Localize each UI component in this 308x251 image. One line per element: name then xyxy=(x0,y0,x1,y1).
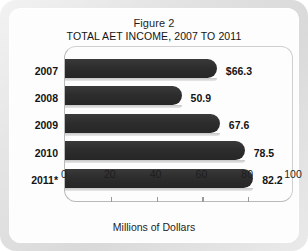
bar-value-label: 50.9 xyxy=(191,92,211,104)
x-axis-title: Millions of Dollars xyxy=(9,221,299,233)
bar-shadow xyxy=(65,78,217,81)
bar-value-label: $66.3 xyxy=(226,65,252,77)
bar-category-label: 2009 xyxy=(35,119,58,131)
x-axis-tick xyxy=(157,197,158,202)
x-axis-tick-label: 0 xyxy=(61,168,67,180)
bar-row: 2007$66.3 xyxy=(65,57,292,84)
bar-track xyxy=(65,141,245,161)
bar-track xyxy=(65,59,217,79)
chart-subtitle: TOTAL AET INCOME, 2007 TO 2011 xyxy=(9,30,299,42)
bar xyxy=(65,86,182,105)
bar-value-label: 82.2 xyxy=(262,174,282,186)
x-axis-tick-label: 40 xyxy=(150,168,162,180)
bar-category-label: 2011* xyxy=(31,174,58,186)
chart-title: Figure 2 xyxy=(9,17,299,29)
bar-category-label: 2007 xyxy=(35,65,58,77)
x-axis-tick xyxy=(248,197,249,202)
bar-row: 200967.6 xyxy=(65,112,292,139)
bar-value-label: 67.6 xyxy=(229,119,249,131)
bar xyxy=(65,59,217,78)
bar xyxy=(65,114,220,133)
x-axis-tick xyxy=(202,197,203,202)
bar xyxy=(65,141,245,160)
bar-category-label: 2010 xyxy=(35,147,58,159)
bar-shadow xyxy=(65,188,253,191)
bar-row: 200850.9 xyxy=(65,84,292,111)
x-axis-tick-label: 20 xyxy=(104,168,116,180)
x-axis-tick-label: 80 xyxy=(241,168,253,180)
plot-area: 2007$66.3200850.9200967.6201078.52011*82… xyxy=(64,46,293,202)
bar-track xyxy=(65,114,220,134)
figure-frame: Figure 2 TOTAL AET INCOME, 2007 TO 2011 … xyxy=(0,0,308,251)
bar-value-label: 78.5 xyxy=(254,147,274,159)
figure-card: Figure 2 TOTAL AET INCOME, 2007 TO 2011 … xyxy=(9,8,299,243)
bar-shadow xyxy=(65,105,182,108)
x-axis-tick xyxy=(111,197,112,202)
bar-row: 201078.5 xyxy=(65,139,292,166)
x-axis-tick-label: 60 xyxy=(196,168,208,180)
x-axis-tick-label: 100 xyxy=(284,168,302,180)
bar-shadow xyxy=(65,160,245,163)
bar-track xyxy=(65,86,182,106)
bar-category-label: 2008 xyxy=(35,92,58,104)
bar-shadow xyxy=(65,133,220,136)
bar-row: 2011*82.2 xyxy=(65,167,292,194)
